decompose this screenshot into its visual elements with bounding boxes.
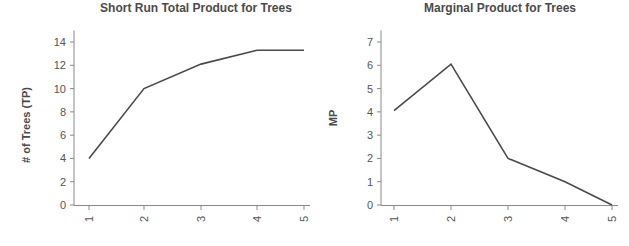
x-tick-label: 4 (559, 216, 571, 222)
x-axis-ticks: 12345 (388, 205, 618, 222)
y-tick-label: 12 (54, 59, 66, 71)
y-tick-label: 2 (367, 152, 373, 164)
x-tick-label: 5 (298, 216, 310, 222)
y-tick-label: 4 (367, 106, 373, 118)
marginal-product-chart: Marginal Product for Trees MP 01234567 1… (327, 1, 618, 222)
y-tick-label: 5 (367, 83, 373, 95)
y-tick-label: 0 (60, 199, 66, 211)
tp-line (89, 50, 304, 158)
x-tick-label: 3 (195, 216, 207, 222)
y-axis-label: # of Trees (TP) (20, 87, 32, 163)
x-tick-label: 1 (388, 216, 400, 222)
x-tick-label: 4 (251, 216, 263, 222)
x-tick-label: 2 (138, 216, 150, 222)
total-product-chart: Short Run Total Product for Trees # of T… (20, 1, 310, 222)
y-tick-label: 2 (60, 176, 66, 188)
x-tick-label: 2 (445, 216, 457, 222)
y-tick-label: 0 (367, 199, 373, 211)
x-tick-label: 1 (83, 216, 95, 222)
x-tick-label: 5 (606, 216, 618, 222)
x-axis-ticks: 12345 (83, 205, 310, 222)
chart-title: Short Run Total Product for Trees (100, 1, 292, 15)
chart-title: Marginal Product for Trees (424, 1, 576, 15)
y-tick-label: 7 (367, 36, 373, 48)
y-tick-label: 3 (367, 129, 373, 141)
y-axis-ticks: 02468101214 (54, 36, 74, 211)
y-tick-label: 14 (54, 36, 66, 48)
charts-canvas: Short Run Total Product for Trees # of T… (0, 0, 629, 246)
y-tick-label: 6 (367, 59, 373, 71)
y-tick-label: 1 (367, 176, 373, 188)
y-tick-label: 4 (60, 152, 66, 164)
y-tick-label: 8 (60, 106, 66, 118)
y-tick-label: 6 (60, 129, 66, 141)
y-axis-label: MP (327, 110, 339, 127)
y-axis-ticks: 01234567 (367, 36, 381, 211)
mp-line (394, 64, 612, 205)
y-tick-label: 10 (54, 83, 66, 95)
x-tick-label: 3 (502, 216, 514, 222)
